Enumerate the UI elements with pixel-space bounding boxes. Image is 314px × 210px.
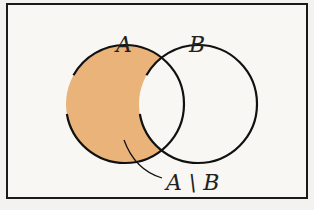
label-a: A: [114, 32, 132, 57]
label-a-minus-b: A \ B: [164, 170, 219, 195]
venn-diagram: A B A \ B: [0, 0, 314, 210]
label-b: B: [188, 32, 205, 57]
